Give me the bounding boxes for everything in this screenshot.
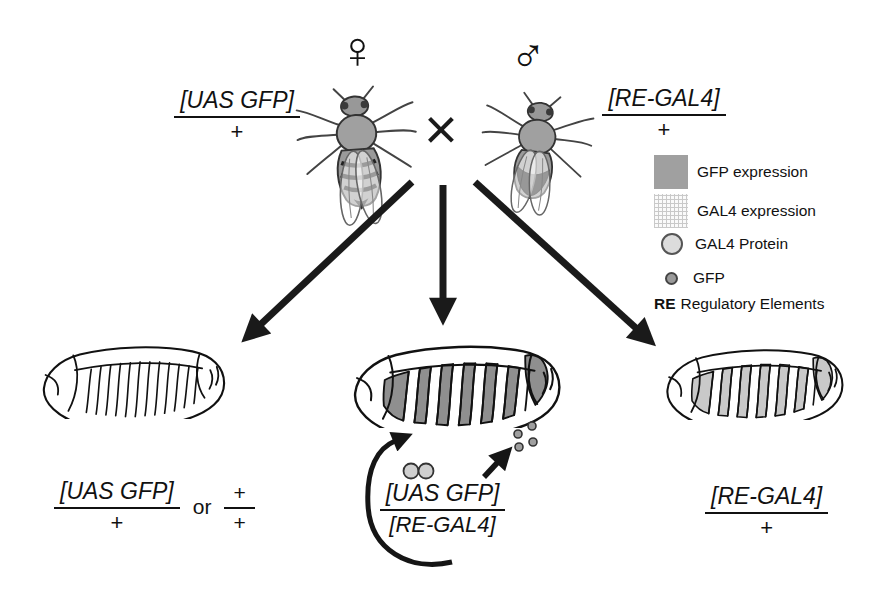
cross-icon: ×: [424, 100, 458, 158]
gfp-molecules: [514, 422, 537, 451]
inheritance-arrows: [170, 168, 710, 368]
inheritance-arrow-right: [475, 182, 637, 329]
gal4-dimer: [404, 464, 434, 479]
inheritance-arrow-left: [260, 182, 412, 325]
gfp-production-arrow: [484, 462, 498, 477]
offspring-right-genotype: [RE-GAL4] +: [705, 484, 825, 540]
or-conjunction: or: [193, 495, 212, 519]
female-genotype: [UAS GFP] +: [172, 88, 302, 144]
female-symbol: ♀: [338, 24, 377, 76]
male-genotype-denominator: +: [658, 116, 671, 142]
offspring-left-genotype: [UAS GFP] + or + +: [54, 479, 255, 535]
embryo-no-expression: [34, 344, 230, 419]
male-genotype-numerator: [RE-GAL4]: [602, 86, 725, 116]
male-symbol: ♂: [510, 32, 546, 80]
female-genotype-numerator: [UAS GFP]: [174, 88, 300, 118]
genotype-numerator: [UAS GFP]: [54, 479, 180, 509]
legend-label: GFP expression: [697, 163, 808, 181]
genotype-numerator: +: [224, 481, 254, 509]
genotype-numerator: [RE-GAL4]: [705, 484, 828, 514]
genotype-denominator: [RE-GAL4]: [389, 511, 495, 537]
genotype-denominator: +: [760, 514, 773, 540]
legend-label: GAL4 expression: [697, 202, 816, 220]
genotype-denominator: +: [110, 509, 123, 535]
genotype-denominator: +: [233, 509, 245, 534]
offspring-middle-genotype: [UAS GFP] [RE-GAL4]: [375, 481, 510, 537]
gal4-uas-cross-figure: ♀ ♂ × [UAS GFP] + [RE-GAL4] + GFP expres…: [0, 0, 888, 598]
female-genotype-denominator: +: [231, 118, 244, 144]
male-genotype: [RE-GAL4] +: [594, 86, 734, 142]
embryo-gal4-expression: [658, 347, 848, 420]
genotype-numerator: [UAS GFP]: [380, 481, 506, 511]
